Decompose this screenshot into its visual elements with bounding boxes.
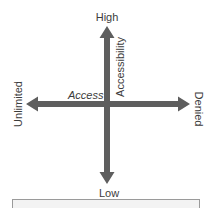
vertical-axis-bottom-label: Low — [99, 187, 119, 199]
horizontal-axis-name: Access — [68, 89, 103, 101]
vertical-axis-name: Accessibility — [114, 37, 126, 97]
horizontal-axis-left-label: Unlimited — [12, 81, 24, 127]
axes-canvas — [0, 0, 220, 208]
vertical-axis-top-label: High — [96, 11, 119, 23]
horizontal-axis-right-label: Denied — [193, 92, 205, 127]
caption-box — [12, 199, 200, 208]
